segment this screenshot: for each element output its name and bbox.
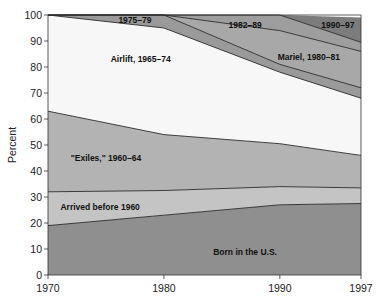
y-tick-label: 70 (30, 87, 42, 99)
series-label: 1990–97 (321, 20, 354, 30)
y-tick-label: 0 (36, 269, 42, 281)
y-tick-label: 60 (30, 113, 42, 125)
series-label: 1975–79 (118, 15, 151, 25)
y-tick-label: 90 (30, 35, 42, 47)
series-label: Arrived before 1960 (60, 202, 140, 212)
series-label: 1982–89 (229, 20, 262, 30)
y-tick-label: 20 (30, 217, 42, 229)
y-axis-label: Percent (6, 127, 18, 163)
x-tick-label: 1997 (349, 282, 373, 294)
x-tick-label: 1980 (152, 282, 176, 294)
x-axis: 1970198019901997 (36, 275, 373, 294)
y-tick-label: 80 (30, 61, 42, 73)
y-tick-label: 100 (24, 9, 42, 21)
stacked-area-chart: 0102030405060708090100 1970198019901997 … (0, 0, 379, 304)
x-tick-label: 1970 (36, 282, 60, 294)
x-tick-label: 1990 (268, 282, 292, 294)
y-tick-label: 10 (30, 243, 42, 255)
y-tick-label: 50 (30, 139, 42, 151)
y-tick-label: 40 (30, 165, 42, 177)
series-label: Mariel, 1980–81 (278, 52, 341, 62)
series-label: "Exiles," 1960–64 (71, 153, 142, 163)
y-tick-label: 30 (30, 191, 42, 203)
y-axis: 0102030405060708090100 (24, 9, 48, 281)
series-label: Airlift, 1965–74 (111, 54, 171, 64)
series-label: Born in the U.S. (213, 247, 277, 257)
